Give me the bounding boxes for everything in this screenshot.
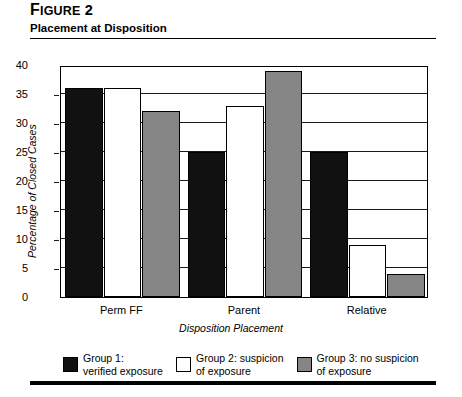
legend-swatch bbox=[176, 357, 191, 372]
bar bbox=[226, 106, 264, 297]
figure-number-value: 2 bbox=[85, 2, 93, 18]
y-tick-label: 10 bbox=[0, 234, 28, 245]
x-tick-label: Perm FF bbox=[60, 304, 183, 316]
legend-label-line1: Group 3: no suspicion bbox=[317, 352, 419, 365]
bar bbox=[142, 111, 180, 297]
bar bbox=[349, 245, 387, 297]
legend-label-line2: verified exposure bbox=[83, 365, 163, 378]
legend-swatch bbox=[63, 357, 78, 372]
bar bbox=[65, 88, 103, 297]
y-tick-mark bbox=[54, 153, 59, 154]
y-tick-label: 0 bbox=[0, 292, 28, 303]
legend-label: Group 1:verified exposure bbox=[83, 352, 163, 377]
y-tick-mark bbox=[54, 240, 59, 241]
header-rule bbox=[30, 38, 436, 39]
x-tick-label: Relative bbox=[305, 304, 428, 316]
bars-layer bbox=[61, 67, 427, 297]
bar bbox=[310, 152, 348, 297]
figure-number-lead: F bbox=[30, 1, 40, 18]
legend-label-line2: of exposure bbox=[317, 365, 419, 378]
y-tick-label: 40 bbox=[0, 60, 28, 71]
y-tick-label: 35 bbox=[0, 89, 28, 100]
figure-title: Placement at Disposition bbox=[30, 21, 436, 36]
y-tick-mark bbox=[54, 124, 59, 125]
y-tick-mark bbox=[54, 182, 59, 183]
plot-area bbox=[60, 66, 428, 298]
y-tick-label: 20 bbox=[0, 176, 28, 187]
y-tick-label: 15 bbox=[0, 205, 28, 216]
legend-label-line1: Group 2: suspicion bbox=[196, 352, 284, 365]
legend-label-line1: Group 1: bbox=[83, 352, 163, 365]
legend-swatch bbox=[297, 357, 312, 372]
bar bbox=[265, 71, 303, 297]
y-tick-mark bbox=[54, 211, 59, 212]
legend-item: Group 1:verified exposure bbox=[63, 352, 163, 377]
y-tick-mark bbox=[54, 95, 59, 96]
x-axis-label: Disposition Placement bbox=[0, 322, 462, 334]
figure-number: FIGURE 2 bbox=[30, 2, 436, 19]
legend-label-line2: of exposure bbox=[196, 365, 284, 378]
bar bbox=[387, 274, 425, 297]
legend-item: Group 3: no suspicionof exposure bbox=[297, 352, 419, 377]
figure-container: FIGURE 2 Placement at Disposition Percen… bbox=[0, 0, 462, 397]
figure-number-rest: IGURE bbox=[40, 4, 81, 18]
y-tick-label: 30 bbox=[0, 118, 28, 129]
y-tick-mark bbox=[54, 269, 59, 270]
legend-label: Group 2: suspicionof exposure bbox=[196, 352, 284, 377]
legend-label: Group 3: no suspicionof exposure bbox=[317, 352, 419, 377]
y-tick-label: 5 bbox=[0, 263, 28, 274]
bar bbox=[188, 152, 226, 297]
x-tick-label: Parent bbox=[183, 304, 306, 316]
figure-header: FIGURE 2 Placement at Disposition bbox=[30, 2, 436, 36]
chart-legend: Group 1:verified exposureGroup 2: suspic… bbox=[63, 352, 443, 377]
bar bbox=[104, 88, 142, 297]
legend-item: Group 2: suspicionof exposure bbox=[176, 352, 284, 377]
y-tick-label: 25 bbox=[0, 147, 28, 158]
footer-rule bbox=[30, 381, 436, 385]
